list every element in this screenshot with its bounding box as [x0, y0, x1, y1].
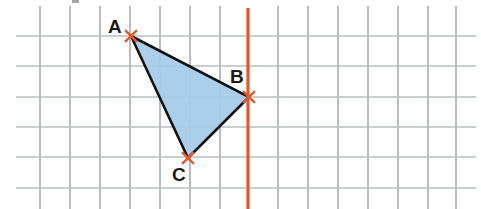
vertex-label-a: A [108, 16, 122, 37]
vertex-label-b: B [230, 66, 244, 87]
geometry-figure: A B C [0, 0, 481, 209]
vertex-label-c: C [172, 164, 186, 185]
geometry-canvas: A B C [0, 0, 481, 209]
page-smudge-mark [72, 0, 79, 3]
